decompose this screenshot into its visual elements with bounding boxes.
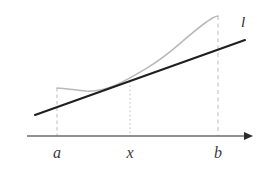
tangent-line-l [35, 40, 245, 115]
tick-label-a: a [53, 144, 61, 161]
curve-path [57, 16, 218, 91]
tick-label-b: b [214, 144, 222, 161]
tick-label-x: x [125, 144, 133, 161]
line-label-l: l [241, 14, 245, 30]
diagram-canvas: l a x b [0, 0, 270, 169]
figure-container: l a x b [0, 0, 270, 169]
